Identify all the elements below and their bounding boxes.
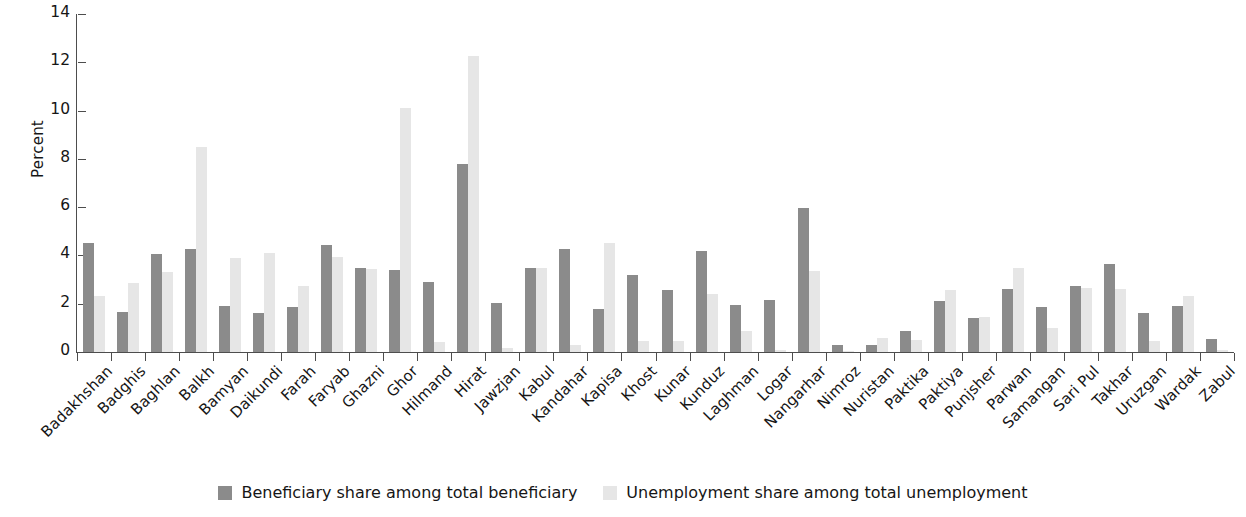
x-axis-tick-mark xyxy=(1132,353,1133,361)
bar-unemployment xyxy=(366,269,377,352)
bar-group xyxy=(1206,14,1228,352)
bar-unemployment xyxy=(1081,288,1092,352)
bar-beneficiary xyxy=(185,249,196,352)
bar-group xyxy=(525,14,547,352)
bar-group xyxy=(389,14,411,352)
bar-group xyxy=(423,14,445,352)
x-axis-tick-mark xyxy=(315,353,316,361)
x-axis-tick-mark xyxy=(996,353,997,361)
bar-group xyxy=(151,14,173,352)
bar-group xyxy=(1104,14,1126,352)
bar-unemployment xyxy=(707,294,718,352)
bar-beneficiary xyxy=(151,254,162,352)
x-axis-tick-mark xyxy=(587,353,588,361)
bar-group xyxy=(117,14,139,352)
bar-unemployment xyxy=(673,341,684,352)
bar-beneficiary xyxy=(253,313,264,352)
bar-group xyxy=(491,14,513,352)
x-axis-tick-mark xyxy=(1030,353,1031,361)
bar-unemployment xyxy=(877,338,888,352)
bar-beneficiary xyxy=(730,305,741,352)
bar-beneficiary xyxy=(1070,286,1081,352)
bar-unemployment xyxy=(128,283,139,352)
y-axis-tick-label: 0 xyxy=(60,341,70,359)
chart-legend: Beneficiary share among total beneficiar… xyxy=(0,483,1246,502)
bar-beneficiary xyxy=(832,345,843,352)
bar-beneficiary xyxy=(662,290,673,352)
x-axis-tick-mark xyxy=(1064,353,1065,361)
bar-beneficiary xyxy=(1138,313,1149,352)
bar-group xyxy=(968,14,990,352)
x-axis-labels: BadakhshanBadghisBaghlanBalkhBamyanDaiku… xyxy=(0,362,1246,472)
legend-label: Unemployment share among total unemploym… xyxy=(626,483,1027,502)
legend-item[interactable]: Unemployment share among total unemploym… xyxy=(603,483,1027,502)
bar-group xyxy=(900,14,922,352)
bar-beneficiary xyxy=(593,309,604,352)
y-axis-tick-label: 2 xyxy=(60,293,70,311)
x-axis-tick-mark xyxy=(621,353,622,361)
bar-beneficiary xyxy=(764,300,775,352)
x-axis-tick-mark xyxy=(1234,353,1235,361)
bar-group xyxy=(219,14,241,352)
bar-beneficiary xyxy=(627,275,638,352)
bar-unemployment xyxy=(1183,296,1194,352)
x-axis-tick-mark xyxy=(1098,353,1099,361)
bar-unemployment xyxy=(945,290,956,352)
x-axis-label-text: Zabul xyxy=(1195,362,1238,405)
bar-unemployment xyxy=(230,258,241,352)
bar-unemployment xyxy=(604,243,615,352)
bar-unemployment xyxy=(1115,289,1126,352)
x-axis-tick-mark xyxy=(519,353,520,361)
x-axis-label: Zabul xyxy=(1195,362,1238,405)
bar-group xyxy=(627,14,649,352)
y-axis-tick-label: 6 xyxy=(60,196,70,214)
bar-beneficiary xyxy=(83,243,94,352)
bar-unemployment xyxy=(298,286,309,352)
legend-swatch-unemployment-icon xyxy=(603,486,617,500)
bar-unemployment xyxy=(468,56,479,352)
bar-beneficiary xyxy=(219,306,230,352)
grouped-bar-chart: Percent 02468101214 BadakhshanBadghisBag… xyxy=(0,0,1246,517)
legend-label: Beneficiary share among total beneficiar… xyxy=(241,483,577,502)
bar-unemployment xyxy=(536,268,547,353)
bar-unemployment xyxy=(162,272,173,352)
bar-group xyxy=(593,14,615,352)
x-axis-tick-mark xyxy=(213,353,214,361)
legend-item[interactable]: Beneficiary share among total beneficiar… xyxy=(218,483,577,502)
bar-group xyxy=(185,14,207,352)
y-axis-tick-label: 14 xyxy=(50,3,70,21)
bar-beneficiary xyxy=(934,301,945,352)
x-axis-tick-mark xyxy=(111,353,112,361)
bar-group xyxy=(1036,14,1058,352)
bar-beneficiary xyxy=(423,282,434,352)
y-axis-tick-label: 10 xyxy=(50,100,70,118)
legend-swatch-beneficiary-icon xyxy=(218,486,232,500)
bar-unemployment xyxy=(1047,328,1058,352)
bar-unemployment xyxy=(400,108,411,352)
x-axis-tick-mark xyxy=(417,353,418,361)
bar-beneficiary xyxy=(457,164,468,352)
bar-group xyxy=(287,14,309,352)
bar-beneficiary xyxy=(117,312,128,352)
x-axis-label-text: Khost xyxy=(617,362,660,405)
x-axis-tick-mark xyxy=(145,353,146,361)
bar-group xyxy=(355,14,377,352)
x-axis-tick-mark xyxy=(1200,353,1201,361)
x-axis-tick-mark xyxy=(860,353,861,361)
bar-beneficiary xyxy=(866,345,877,352)
bar-beneficiary xyxy=(900,331,911,352)
bar-beneficiary xyxy=(1104,264,1115,352)
x-axis-tick-mark xyxy=(690,353,691,361)
bar-group xyxy=(730,14,752,352)
bar-group xyxy=(832,14,854,352)
y-axis-title: Percent xyxy=(29,79,47,219)
x-axis-tick-mark xyxy=(656,353,657,361)
bar-beneficiary xyxy=(1036,307,1047,352)
bar-group xyxy=(934,14,956,352)
bar-beneficiary xyxy=(287,307,298,352)
bar-beneficiary xyxy=(1206,339,1217,352)
bar-beneficiary xyxy=(559,249,570,352)
plot-area xyxy=(77,14,1234,352)
bar-unemployment xyxy=(332,257,343,352)
x-axis-tick-mark xyxy=(894,353,895,361)
